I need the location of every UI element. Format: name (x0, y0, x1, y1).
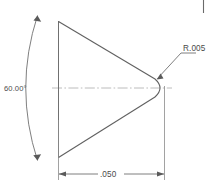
radius-leader-line (157, 53, 196, 79)
radius-callout-label: R.005 (183, 44, 206, 53)
cone-lower-edge (59, 97, 156, 158)
engineering-drawing-canvas: 60.00° R.005 .050 (0, 0, 210, 191)
angle-dimension-arc (26, 16, 38, 161)
angle-arc-arrow-bottom (33, 154, 41, 160)
radius-leader-arrow (157, 74, 164, 80)
angle-dimension-label: 60.00° (4, 84, 27, 93)
length-dim-arrow-left (59, 172, 66, 177)
length-dimension-label: .050 (100, 170, 117, 179)
length-dim-arrow-right (157, 172, 164, 177)
angle-arc-arrow-top (34, 16, 42, 22)
cone-upper-edge (59, 22, 156, 80)
